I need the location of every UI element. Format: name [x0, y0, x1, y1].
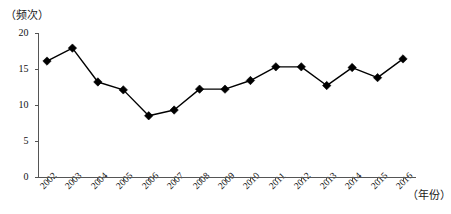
data-series — [43, 44, 407, 120]
data-point-marker — [43, 57, 51, 65]
data-point-marker — [221, 85, 229, 93]
x-tick-marks — [47, 177, 403, 181]
data-point-marker — [348, 63, 356, 71]
data-point-marker — [246, 76, 254, 84]
series-markers — [43, 44, 407, 120]
plot-area — [0, 0, 451, 214]
y-tick-marks — [35, 33, 39, 177]
axes — [35, 33, 417, 181]
line-chart: （频次） （年份） 05101520 200220032004200520062… — [0, 0, 451, 214]
data-point-marker — [272, 63, 280, 71]
